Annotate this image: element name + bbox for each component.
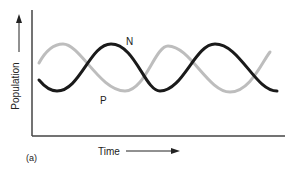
y-axis-label: Population bbox=[10, 62, 21, 109]
population-cycle-diagram: Population Time N P (a) bbox=[0, 0, 300, 174]
y-axis-arrow-icon bbox=[16, 14, 22, 52]
x-axis-arrow-icon bbox=[126, 148, 180, 154]
series-n-label: N bbox=[126, 36, 133, 47]
panel-label: (a) bbox=[26, 153, 37, 163]
x-axis-label: Time bbox=[98, 146, 120, 157]
series-p-label: P bbox=[100, 95, 107, 106]
series-p-curve bbox=[39, 44, 270, 92]
